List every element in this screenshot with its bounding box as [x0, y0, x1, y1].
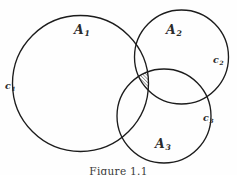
region-label-a1: A1 — [74, 24, 90, 37]
figure-caption: Figure 1.1 — [0, 165, 237, 175]
circle-label-c3: c3 — [203, 113, 214, 123]
figure-container: A1 A2 A3 c1 c2 c3 Figure 1.1 — [0, 0, 237, 175]
circle-label-c2: c2 — [213, 55, 224, 65]
circle-label-c1: c1 — [5, 81, 16, 91]
region-label-a2: A2 — [166, 24, 182, 37]
region-label-a3: A3 — [155, 138, 171, 151]
venn-diagram-svg — [0, 0, 237, 175]
